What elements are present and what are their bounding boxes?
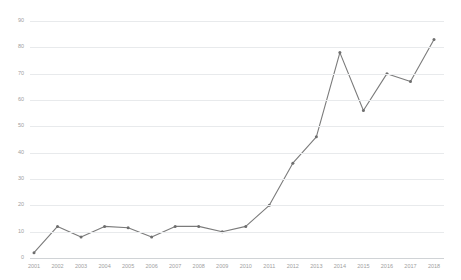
data-point-marker <box>174 225 177 228</box>
data-point-marker <box>291 162 294 165</box>
data-point-marker <box>33 251 36 254</box>
gridline <box>30 153 444 154</box>
gridline <box>30 126 444 127</box>
gridline <box>30 179 444 180</box>
y-axis-tick-label: 40 <box>2 150 24 156</box>
y-axis-tick-label: 10 <box>2 229 24 235</box>
y-axis-tick-label: 90 <box>2 18 24 24</box>
data-point-marker <box>150 235 153 238</box>
data-point-marker <box>197 225 200 228</box>
gridline <box>30 21 444 22</box>
data-point-marker <box>433 38 436 41</box>
series-line <box>30 21 444 258</box>
data-point-marker <box>244 225 247 228</box>
data-point-marker <box>56 225 59 228</box>
y-axis-tick-label: 20 <box>2 202 24 208</box>
y-axis-tick-label: 60 <box>2 97 24 103</box>
data-point-marker <box>338 51 341 54</box>
gridline <box>30 100 444 101</box>
data-point-marker <box>127 226 130 229</box>
y-axis-tick-label: 70 <box>2 71 24 77</box>
y-axis-tick-label: 80 <box>2 44 24 50</box>
data-point-marker <box>409 80 412 83</box>
data-point-marker <box>315 135 318 138</box>
data-point-marker <box>362 109 365 112</box>
gridline <box>30 47 444 48</box>
gridline <box>30 74 444 75</box>
x-axis-line <box>30 258 444 259</box>
gridline <box>30 232 444 233</box>
data-point-marker <box>103 225 106 228</box>
data-point-marker <box>80 235 83 238</box>
data-line <box>34 39 434 252</box>
x-axis-tick-label: 2018 <box>419 264 449 270</box>
gridline <box>30 205 444 206</box>
y-axis-tick-label: 0 <box>2 255 24 261</box>
y-axis-tick-label: 30 <box>2 176 24 182</box>
line-chart: 0102030405060708090200120022003200420052… <box>0 0 461 280</box>
plot-area <box>30 21 444 258</box>
y-axis-tick-label: 50 <box>2 123 24 129</box>
